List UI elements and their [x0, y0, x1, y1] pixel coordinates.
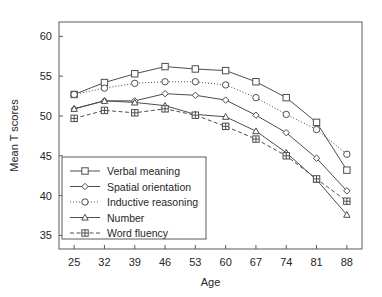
data-point-square	[162, 63, 168, 69]
data-point-square	[344, 167, 350, 173]
legend-item-label: Word fluency	[107, 227, 169, 239]
x-tick-label: 60	[220, 256, 232, 268]
series-line	[74, 67, 347, 171]
y-tick-label: 55	[40, 70, 52, 82]
data-point-square	[82, 168, 88, 174]
x-tick-label: 39	[129, 256, 141, 268]
data-point-diamond	[192, 92, 198, 98]
data-point-square-plus	[344, 198, 350, 204]
legend-item-label: Verbal meaning	[107, 165, 180, 177]
chart-figure: 354045505560 25323946536067748188 Mean T…	[0, 0, 382, 297]
line-chart: 354045505560 25323946536067748188 Mean T…	[0, 0, 382, 297]
y-tick-label: 35	[40, 229, 52, 241]
data-point-square-plus	[101, 107, 107, 113]
data-point-circle	[82, 199, 88, 205]
x-tick-label: 46	[159, 256, 171, 268]
data-point-diamond	[253, 112, 259, 118]
data-point-circle	[192, 79, 198, 85]
data-point-square	[253, 79, 259, 85]
series-inductive-reasoning	[71, 79, 350, 158]
data-point-square-plus	[313, 176, 319, 182]
x-tick-label: 67	[250, 256, 262, 268]
legend-item-label: Inductive reasoning	[107, 196, 198, 208]
y-axis-ticks: 354045505560	[40, 30, 63, 241]
legend-item-label: Number	[107, 212, 145, 224]
x-tick-label: 74	[280, 256, 292, 268]
data-point-circle	[71, 91, 77, 97]
data-point-square-plus	[192, 112, 198, 118]
y-axis-title: Mean T scores	[8, 99, 20, 172]
data-point-circle	[344, 151, 350, 157]
data-point-square-plus	[222, 123, 228, 129]
data-point-square-plus	[132, 110, 138, 116]
legend-item-label: Spatial orientation	[107, 181, 191, 193]
x-axis-title: Age	[201, 276, 221, 288]
data-point-square	[192, 66, 198, 72]
y-tick-label: 40	[40, 190, 52, 202]
x-tick-label: 81	[310, 256, 322, 268]
data-point-circle	[222, 82, 228, 88]
data-point-diamond	[222, 97, 228, 103]
data-point-triangle	[253, 128, 259, 134]
data-point-square-plus	[71, 115, 77, 121]
chart-legend: Verbal meaningSpatial orientationInducti…	[62, 157, 206, 239]
y-tick-label: 60	[40, 30, 52, 42]
data-point-circle	[101, 85, 107, 91]
x-axis-ticks: 25323946536067748188	[68, 245, 353, 268]
x-tick-label: 53	[189, 256, 201, 268]
data-point-diamond	[162, 90, 168, 96]
y-tick-label: 45	[40, 150, 52, 162]
data-point-circle	[313, 126, 319, 132]
x-tick-label: 88	[341, 256, 353, 268]
data-point-square-plus	[82, 230, 88, 236]
data-point-square	[222, 67, 228, 73]
data-point-square-plus	[283, 153, 289, 159]
series-line	[74, 82, 347, 154]
data-point-square-plus	[162, 106, 168, 112]
data-point-circle	[132, 80, 138, 86]
x-tick-label: 32	[98, 256, 110, 268]
data-point-square-plus	[253, 136, 259, 142]
data-point-circle	[253, 94, 259, 100]
data-point-square	[313, 119, 319, 125]
x-tick-label: 25	[68, 256, 80, 268]
data-point-square	[283, 94, 289, 100]
data-point-circle	[162, 79, 168, 85]
y-tick-label: 50	[40, 110, 52, 122]
data-point-square	[132, 71, 138, 77]
data-point-circle	[283, 111, 289, 117]
